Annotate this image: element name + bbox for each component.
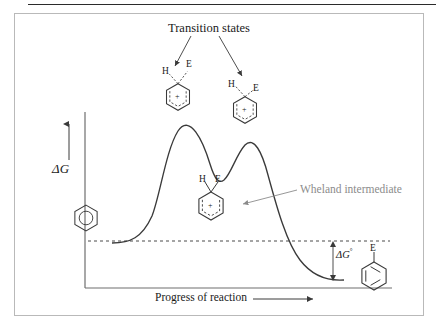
- product-atom-E: E: [370, 244, 376, 254]
- bond-to-H: [236, 86, 246, 96]
- free-energy-curve: [112, 125, 344, 280]
- delta-g-standard-label: ΔG°: [336, 248, 353, 260]
- structure-product-benzene: [362, 252, 386, 290]
- wheland-charge-plus: +: [208, 202, 213, 210]
- inner-double-bond-3: [371, 267, 381, 273]
- delta-g-text: ΔG: [336, 249, 350, 260]
- wheland-pointer-arrow: [243, 190, 297, 204]
- bond-to-H: [169, 74, 178, 84]
- ts1-charge-plus: +: [175, 93, 180, 101]
- axes: [69, 112, 392, 299]
- ts2-atom-E: E: [253, 84, 259, 94]
- wheland-atom-E: E: [215, 175, 221, 185]
- x-axis-label: Progress of reaction: [155, 292, 247, 304]
- wheland-intermediate-label: Wheland intermediate: [300, 184, 402, 196]
- ts1-atom-H: H: [162, 67, 169, 77]
- bond-to-E: [178, 71, 188, 83]
- transition-states-label: Transition states: [168, 22, 250, 35]
- ts1-atom-E: E: [186, 60, 192, 70]
- delta-g-arrow-top: [330, 241, 336, 247]
- ts2-atom-H: H: [228, 80, 235, 90]
- delta-g-measure: [330, 241, 336, 281]
- structure-reactant-benzene: [75, 205, 97, 231]
- energy-diagram-figure: Transition states Wheland intermediate Δ…: [0, 0, 440, 329]
- y-axis-label: ΔG: [52, 162, 69, 175]
- ts2-pointer-arrow: [219, 36, 242, 76]
- structure-transition-state-1: [167, 71, 190, 110]
- inner-double-bond-2: [371, 280, 381, 286]
- aromatic-circle: [79, 211, 93, 225]
- benzene-hexagon: [75, 205, 97, 231]
- wheland-atom-H: H: [199, 175, 206, 185]
- ts2-charge-plus: +: [242, 106, 247, 114]
- delta-g-superscript: °: [350, 247, 353, 255]
